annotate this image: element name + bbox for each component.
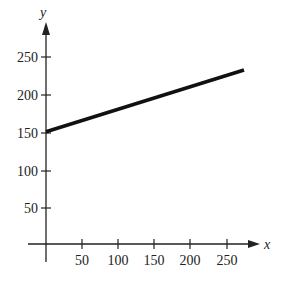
y-tick-label: 250 <box>17 50 38 65</box>
data-line <box>46 70 244 132</box>
x-tick-label: 250 <box>217 253 238 268</box>
y-tick-label: 150 <box>17 126 38 141</box>
x-tick-label: 50 <box>75 253 89 268</box>
x-tick-labels: 50 100 150 200 250 <box>75 253 238 268</box>
y-axis-arrow-icon <box>42 22 50 35</box>
x-tick-label: 150 <box>144 253 165 268</box>
y-tick-label: 100 <box>17 164 38 179</box>
y-axis-label: y <box>38 5 47 20</box>
y-tick-label: 200 <box>17 88 38 103</box>
y-tick-label: 50 <box>24 201 38 216</box>
y-tick-labels: 250 200 150 100 50 <box>17 50 38 216</box>
x-tick-label: 100 <box>108 253 129 268</box>
x-tick-label: 200 <box>180 253 201 268</box>
x-axis-label: x <box>263 237 271 252</box>
chart: x y 50 100 150 200 250 250 200 150 100 5… <box>0 0 286 287</box>
x-axis-arrow-icon <box>248 240 260 248</box>
